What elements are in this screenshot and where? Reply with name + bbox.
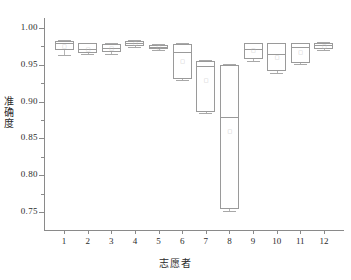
plot-area: □□□□□□□□□□□□ [44,18,344,230]
x-tick-label-12: 12 [309,236,339,246]
x-tick-1 [64,230,65,234]
x-tick-9 [253,230,254,234]
x-tick-12 [324,230,325,234]
x-axis-line [44,230,344,231]
y-tick-label-0.80: 0.80 [21,169,38,179]
x-tick-3 [111,230,112,234]
x-tick-5 [159,230,160,234]
y-axis-title: 准确度 [2,96,16,129]
mean-marker-12: □ [322,44,327,49]
y-tick-label-0.85: 0.85 [21,132,38,142]
x-tick-11 [300,230,301,234]
y-tick-label-0.95: 0.95 [21,59,38,69]
x-tick-8 [229,230,230,234]
y-tick-label-1.00: 1.00 [21,22,38,32]
boxplot-chart: 0.750.800.850.900.951.00 123456789101112… [0,0,351,280]
x-tick-10 [277,230,278,234]
y-tick-label-0.75: 0.75 [21,206,38,216]
box-group-12: □ [44,18,344,230]
x-tick-2 [88,230,89,234]
x-tick-7 [206,230,207,234]
x-tick-4 [135,230,136,234]
x-axis-title: 志愿者 [0,255,351,270]
whisker-cap-lower [317,50,330,51]
y-tick-label-0.90: 0.90 [21,96,38,106]
x-tick-6 [182,230,183,234]
